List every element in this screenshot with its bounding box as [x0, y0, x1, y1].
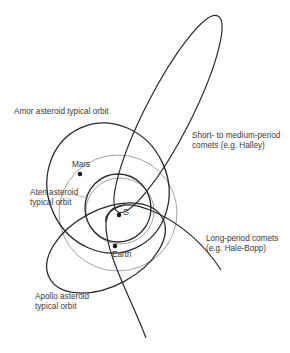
halley-orbit	[98, 6, 239, 223]
apollo-label-line2: typical orbit	[35, 302, 76, 312]
halley-label-line2: comets (e.g. Halley)	[192, 141, 265, 151]
aten-label-line2: typical orbit	[30, 198, 71, 208]
aten-orbit	[85, 174, 151, 242]
sun-dot	[117, 213, 122, 218]
halley-label-line1: Short- to medium-period	[192, 131, 280, 141]
apollo-label-line1: Apollo asteroid	[35, 292, 89, 302]
earth-label: Earth	[112, 250, 132, 260]
mars-dot	[78, 172, 83, 177]
sun-label: S	[123, 208, 129, 218]
long-period-label-line1: Long-period comets	[206, 234, 278, 244]
aten-label-line1: Aten asteroid	[30, 188, 78, 198]
long-period-label-line2: (e.g. Hale-Bopp)	[206, 244, 266, 254]
amor-label: Amor asteroid typical orbit	[14, 107, 109, 117]
earth-dot	[113, 244, 118, 249]
long-period-orbit	[106, 205, 221, 338]
mars-label: Mars	[72, 160, 90, 170]
